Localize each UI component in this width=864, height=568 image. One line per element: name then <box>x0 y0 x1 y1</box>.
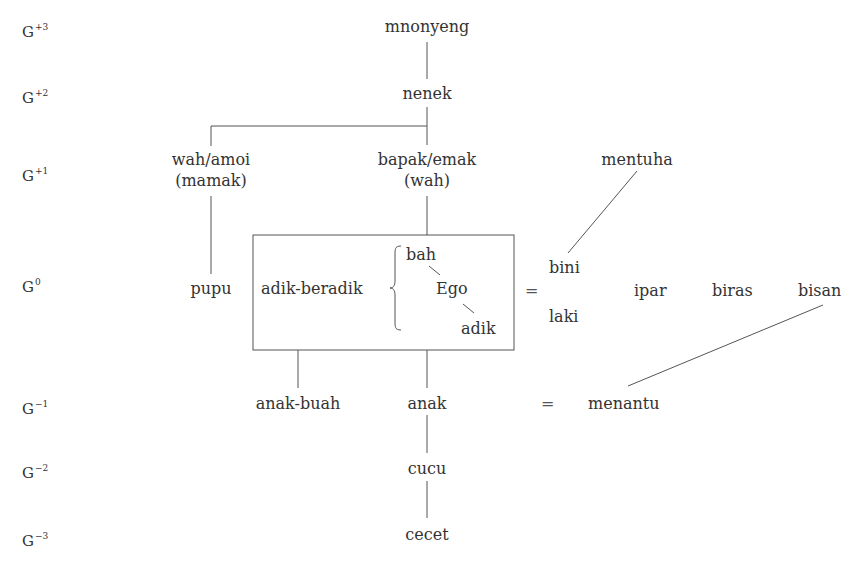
generation-label-g+1: G+1 <box>22 162 48 185</box>
generation-label-g0: G0 <box>22 273 41 296</box>
term-laki: laki <box>549 308 578 326</box>
term-bini: bini <box>549 259 580 277</box>
generation-label-g-1: G−1 <box>22 395 48 418</box>
term-nenek: nenek <box>402 85 451 103</box>
term-menantu: menantu <box>588 395 660 413</box>
curly-brace-icon <box>389 245 403 331</box>
term-mamak: (mamak) <box>175 172 247 190</box>
generation-label-g-2: G−2 <box>22 459 48 482</box>
term-pupu: pupu <box>190 280 231 298</box>
term-bah: bah <box>406 246 436 264</box>
term-wah: (wah) <box>404 172 450 190</box>
equals-sign-in-law: = <box>541 395 554 413</box>
term-bisan: bisan <box>798 282 841 300</box>
generation-label-g+3: G+3 <box>22 18 48 41</box>
term-ipar: ipar <box>634 282 667 300</box>
term-mentuha: mentuha <box>601 151 673 169</box>
generation-label-g-3: G−3 <box>22 527 48 550</box>
term-cecet: cecet <box>405 526 448 544</box>
term-ego: Ego <box>436 280 468 298</box>
term-biras: biras <box>712 282 753 300</box>
term-wah-amoi: wah/amoi <box>172 151 250 169</box>
term-mnonyeng: mnonyeng <box>385 18 469 36</box>
term-adik: adik <box>461 320 496 338</box>
term-bapak-emak: bapak/emak <box>378 151 477 169</box>
equals-sign-marriage: = <box>525 282 538 300</box>
term-anak-buah: anak-buah <box>256 395 341 413</box>
term-adik-beradik: adik-beradik <box>261 280 363 298</box>
term-cucu: cucu <box>408 460 447 478</box>
term-anak: anak <box>407 395 446 413</box>
generation-label-g+2: G+2 <box>22 84 48 107</box>
